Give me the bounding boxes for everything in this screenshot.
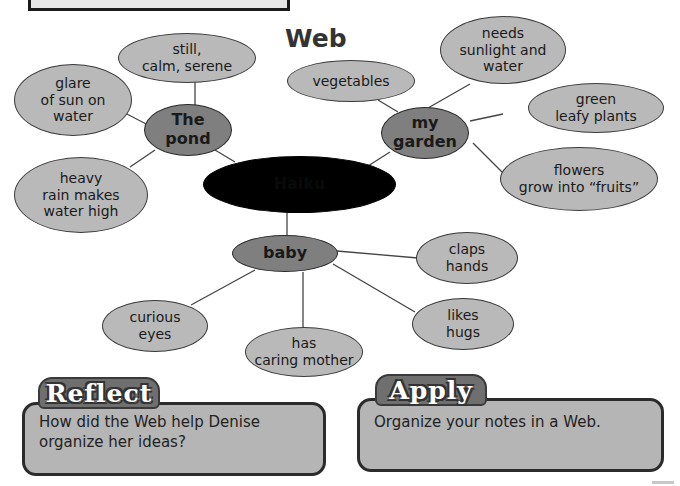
reflect-panel: How did the Web help Denise organize her…: [22, 402, 326, 476]
detail-node: flowers grow into “fruits”: [500, 147, 658, 211]
page-number-mark: [652, 481, 674, 484]
detail-node: green leafy plants: [528, 83, 664, 133]
detail-node: curious eyes: [102, 300, 208, 352]
apply-panel: Organize your notes in a Web.: [357, 398, 664, 472]
detail-label: needs sunlight and water: [460, 25, 547, 75]
detail-node: vegetables: [287, 60, 415, 102]
detail-label: claps hands: [446, 241, 489, 274]
detail-node: needs sunlight and water: [440, 16, 566, 84]
detail-label: flowers grow into “fruits”: [519, 162, 639, 195]
detail-label: curious eyes: [130, 309, 181, 342]
detail-label: has caring mother: [254, 335, 353, 368]
apply-heading-label: Apply: [389, 376, 472, 405]
detail-label: heavy rain makes water high: [42, 170, 119, 220]
detail-node: likes hugs: [412, 298, 514, 350]
detail-node: glare of sun on water: [14, 64, 132, 136]
hub-node-baby: baby: [232, 235, 338, 272]
detail-label: vegetables: [312, 73, 389, 90]
detail-label: still, calm, serene: [142, 41, 232, 74]
apply-prompt: Organize your notes in a Web.: [374, 413, 601, 433]
reflect-heading-label: Reflect: [46, 379, 153, 408]
detail-node: still, calm, serene: [118, 33, 256, 83]
hub-node-garden: my garden: [381, 107, 469, 159]
detail-node: has caring mother: [245, 327, 363, 377]
apply-heading: Apply: [375, 374, 487, 406]
detail-node: claps hands: [416, 232, 518, 284]
hub-node-pond: The pond: [144, 104, 232, 156]
reflect-prompt: How did the Web help Denise organize her…: [39, 413, 260, 452]
hub-node-label: The pond: [165, 111, 210, 149]
reflect-heading: Reflect: [38, 377, 160, 409]
detail-label: likes hugs: [446, 307, 480, 340]
hub-node-label: baby: [263, 244, 307, 263]
detail-label: glare of sun on water: [41, 75, 106, 125]
center-node-haiku: Haiku: [203, 156, 396, 213]
hub-node-label: my garden: [393, 114, 457, 152]
detail-node: heavy rain makes water high: [14, 157, 148, 233]
center-node-label: Haiku: [274, 175, 326, 194]
detail-label: green leafy plants: [555, 91, 637, 124]
